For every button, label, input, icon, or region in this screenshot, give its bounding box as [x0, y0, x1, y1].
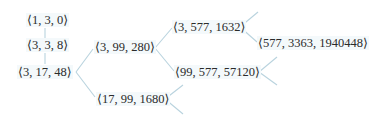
triple-tree-diagram: ⟨1, 3, 0⟩ ⟨3, 3, 8⟩ ⟨3, 17, 48⟩ ⟨3, 99, …	[0, 0, 378, 119]
edge-n3-n5	[76, 72, 95, 97]
node-3-3-8: ⟨3, 3, 8⟩	[26, 38, 69, 52]
edge-n7-branch-up	[259, 57, 277, 72]
edge-n4-n7	[155, 48, 174, 71]
node-3-17-48: ⟨3, 17, 48⟩	[17, 65, 73, 79]
node-99-577-57120: ⟨99, 577, 57120⟩	[174, 65, 261, 79]
node-17-99-1680: ⟨17, 99, 1680⟩	[96, 92, 170, 106]
node-577-3363-1940448: ⟨577, 3363, 1940448⟩	[257, 36, 369, 50]
edge-n3-n4	[76, 49, 93, 72]
node-1-3-0: ⟨1, 3, 0⟩	[26, 13, 69, 27]
node-3-99-280: ⟨3, 99, 280⟩	[94, 40, 156, 54]
node-3-577-1632: ⟨3, 577, 1632⟩	[172, 20, 246, 34]
edge-n7-branch-down	[259, 72, 277, 85]
edge-n4-n6	[155, 28, 172, 48]
